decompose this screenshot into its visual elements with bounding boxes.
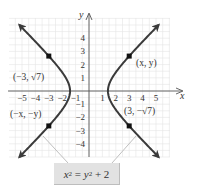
x-tick-label: 1 (100, 93, 105, 103)
y-tick-label: −2 (75, 112, 85, 122)
y-tick-label: −3 (75, 126, 85, 136)
callout-leader-lines (43, 136, 136, 163)
point-label-right-top: (x, y) (136, 58, 157, 69)
y-tick-label: −1 (75, 99, 85, 109)
point-label-right-bottom: (3, −√7) (124, 106, 155, 117)
y-axis-label: y (78, 9, 84, 20)
y-tick-label: 3 (81, 46, 86, 56)
x-tick-label: 4 (140, 93, 145, 103)
y-tick-label: 2 (81, 60, 86, 70)
point-label-left-top: (−3, √7) (13, 72, 44, 83)
x-tick-label: 2 (114, 93, 119, 103)
eq-equals: = (72, 168, 84, 180)
x-tick-label: 5 (154, 93, 159, 103)
eq-rhs-tail: + 2 (92, 168, 109, 180)
x-tick-label: −5 (17, 93, 27, 103)
point-label-left-bottom: (−x, −y) (10, 109, 41, 120)
data-point-marker (127, 123, 132, 128)
x-axis-label: x (179, 90, 185, 101)
x-tick-label: −3 (44, 93, 54, 103)
y-tick-label: 4 (81, 33, 86, 43)
x-tick-label: 3 (127, 93, 132, 103)
x-tick-label: −2 (57, 93, 67, 103)
data-point-marker (46, 54, 51, 59)
data-point-marker (127, 54, 132, 59)
y-tick-label: −4 (75, 139, 85, 149)
y-tick-label: 1 (81, 73, 86, 83)
x-tick-label: −4 (31, 93, 41, 103)
equation-callout: x2 = y2 + 2 (54, 163, 120, 185)
data-point-marker (46, 123, 51, 128)
